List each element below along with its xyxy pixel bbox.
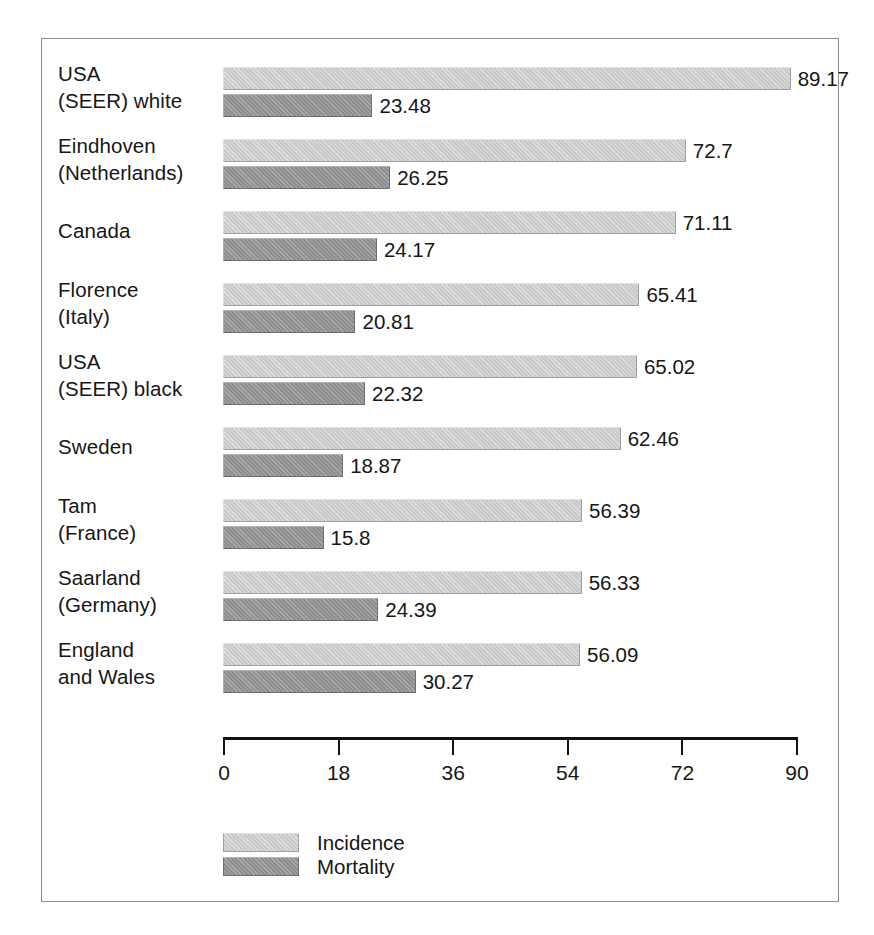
bar-value-label: 71.11 xyxy=(683,211,733,234)
category-label: USA (SEER) black xyxy=(58,347,213,402)
x-axis: 01836547290 xyxy=(223,737,838,797)
bar-incidence[interactable] xyxy=(223,211,676,234)
bar-mortality[interactable] xyxy=(223,166,390,189)
bar-value-label: 30.27 xyxy=(423,670,474,693)
x-axis-tick xyxy=(681,737,683,755)
bar-track: 62.4618.87 xyxy=(223,419,838,491)
bar-value-label: 22.32 xyxy=(372,382,423,405)
x-axis-tick xyxy=(338,737,340,755)
bar-mortality[interactable] xyxy=(223,454,343,477)
bar-mortality[interactable] xyxy=(223,598,378,621)
bar-value-label: 18.87 xyxy=(350,454,401,477)
chart-row: USA (SEER) white89.1723.48 xyxy=(42,59,838,131)
bar-value-label: 89.17 xyxy=(798,67,849,90)
category-label: USA (SEER) white xyxy=(58,59,213,114)
category-label: Florence (Italy) xyxy=(58,275,213,330)
chart-row: Tam (France)56.3915.8 xyxy=(42,491,838,563)
x-axis-tick-label: 36 xyxy=(442,761,465,785)
x-axis-tick xyxy=(567,737,569,755)
bar-value-label: 65.02 xyxy=(644,355,695,378)
bar-mortality[interactable] xyxy=(223,94,372,117)
bar-incidence[interactable] xyxy=(223,67,791,90)
chart-row: Florence (Italy)65.4120.81 xyxy=(42,275,838,347)
x-axis-tick xyxy=(223,737,225,755)
bar-track: 89.1723.48 xyxy=(223,59,838,131)
bar-mortality[interactable] xyxy=(223,238,377,261)
chart-row: Eindhoven (Netherlands)72.726.25 xyxy=(42,131,838,203)
chart-row: Saarland (Germany)56.3324.39 xyxy=(42,563,838,635)
bar-value-label: 23.48 xyxy=(379,94,430,117)
chart-row: Sweden62.4618.87 xyxy=(42,419,838,491)
bar-value-label: 56.33 xyxy=(589,571,640,594)
bar-incidence[interactable] xyxy=(223,427,621,450)
bar-value-label: 56.39 xyxy=(589,499,640,522)
bar-mortality[interactable] xyxy=(223,310,355,333)
chart-row: England and Wales56.0930.27 xyxy=(42,635,838,707)
bar-mortality[interactable] xyxy=(223,526,324,549)
category-label: Saarland (Germany) xyxy=(58,563,213,618)
bar-value-label: 24.39 xyxy=(385,598,436,621)
chart-row: Canada71.1124.17 xyxy=(42,203,838,275)
legend-swatch-incidence-icon xyxy=(223,833,299,852)
category-label: Eindhoven (Netherlands) xyxy=(58,131,213,186)
x-axis-tick-label: 18 xyxy=(327,761,350,785)
x-axis-tick-label: 72 xyxy=(671,761,694,785)
bar-incidence[interactable] xyxy=(223,283,639,306)
category-label: Sweden xyxy=(58,419,213,460)
bar-value-label: 20.81 xyxy=(362,310,413,333)
bar-value-label: 24.17 xyxy=(384,238,435,261)
bar-value-label: 56.09 xyxy=(587,643,638,666)
bar-track: 56.0930.27 xyxy=(223,635,838,707)
bar-incidence[interactable] xyxy=(223,139,686,162)
bar-track: 71.1124.17 xyxy=(223,203,838,275)
x-axis-tick-label: 54 xyxy=(556,761,579,785)
bar-mortality[interactable] xyxy=(223,670,416,693)
bar-track: 65.4120.81 xyxy=(223,275,838,347)
legend-swatch-mortality-icon xyxy=(223,857,299,876)
category-label: Canada xyxy=(58,203,213,244)
bar-value-label: 65.41 xyxy=(646,283,697,306)
category-label: Tam (France) xyxy=(58,491,213,546)
bar-incidence[interactable] xyxy=(223,499,582,522)
bar-track: 56.3915.8 xyxy=(223,491,838,563)
bar-value-label: 26.25 xyxy=(397,166,448,189)
bar-track: 72.726.25 xyxy=(223,131,838,203)
bar-value-label: 72.7 xyxy=(693,139,733,162)
x-axis-tick-label: 90 xyxy=(785,761,808,785)
legend-label: Incidence xyxy=(317,831,405,855)
bar-incidence[interactable] xyxy=(223,355,637,378)
x-axis-tick xyxy=(452,737,454,755)
legend-label: Mortality xyxy=(317,855,394,879)
bar-value-label: 15.8 xyxy=(331,526,371,549)
bar-mortality[interactable] xyxy=(223,382,365,405)
x-axis-line xyxy=(223,737,798,740)
chart-row: USA (SEER) black65.0222.32 xyxy=(42,347,838,419)
bar-incidence[interactable] xyxy=(223,571,582,594)
x-axis-tick-label: 0 xyxy=(218,761,230,785)
bar-incidence[interactable] xyxy=(223,643,580,666)
chart-frame: USA (SEER) white89.1723.48Eindhoven (Net… xyxy=(41,38,839,902)
x-axis-tick xyxy=(796,737,798,755)
bar-track: 65.0222.32 xyxy=(223,347,838,419)
bar-track: 56.3324.39 xyxy=(223,563,838,635)
category-label: England and Wales xyxy=(58,635,213,690)
bar-value-label: 62.46 xyxy=(628,427,679,450)
